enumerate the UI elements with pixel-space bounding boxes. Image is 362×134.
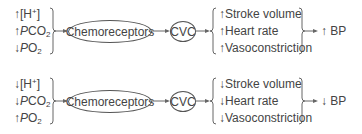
chemoreceptors-node: Chemoreceptors [68,20,152,43]
result-bp: ↓ BP [321,94,346,108]
effect-stroke-volume: ↑Stroke volume [219,7,302,21]
diagram-decrease: ↓[H+] ↓PCO2 ↑PO2 Chemoreceptors CVC ↓Str… [0,70,362,132]
cvc-node: CVC [170,91,196,112]
effect-vasoconstriction: ↑Vasoconstriction [219,41,312,55]
cvc-node: CVC [170,21,196,42]
diagram-increase: ↑[H+] ↑PCO2 ↓PO2 Chemoreceptors CVC ↑Str… [0,0,362,62]
effect-heart-rate: ↓Heart rate [219,94,278,108]
effect-stroke-volume: ↓Stroke volume [219,77,302,91]
result-bp: ↑ BP [321,24,346,38]
chemoreceptors-node: Chemoreceptors [68,90,152,113]
effect-heart-rate: ↑Heart rate [219,24,278,38]
effect-vasoconstriction: ↓Vasoconstriction [219,111,312,125]
up-arrow-icon: ↑ [321,24,327,38]
down-arrow-icon: ↓ [321,94,327,108]
